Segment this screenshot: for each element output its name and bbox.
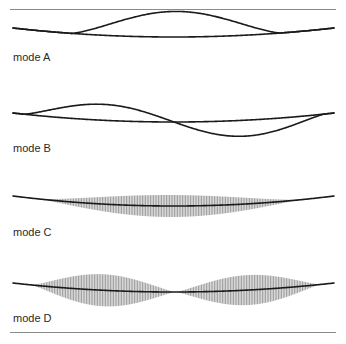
mode-b-string [13,113,334,122]
mode-d-string [13,283,334,292]
mode-b-displacement [13,104,334,136]
mode-c-string [13,196,334,206]
vibration-modes-figure: mode A mode B mode C mode D [0,0,346,344]
bottom-rule [10,332,336,333]
mode-c-label: mode C [13,226,52,238]
mode-a-displacement [13,11,334,33]
mode-b-label: mode B [13,142,51,154]
mode-shapes-plot [0,0,346,344]
mode-d-label: mode D [13,312,52,324]
mode-a-label: mode A [13,51,50,63]
mode-d-shape [35,274,317,306]
